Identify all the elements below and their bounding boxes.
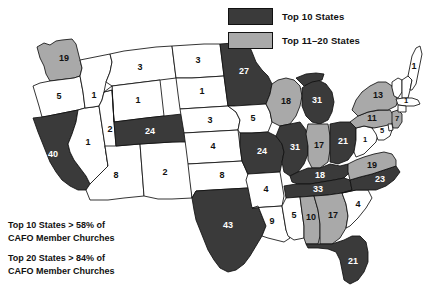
state-label-wi: 18 bbox=[281, 96, 291, 106]
state-label-mt: 3 bbox=[137, 62, 142, 72]
footnote-line-4: CAFO Member Churches bbox=[8, 265, 115, 278]
legend-item-top11-20[interactable]: Top 11–20 States bbox=[228, 32, 360, 49]
state-label-ca: 40 bbox=[48, 149, 58, 159]
state-label-tx: 43 bbox=[223, 220, 233, 230]
state-mi[interactable]: 31 bbox=[296, 73, 334, 124]
legend-swatch-top11-20 bbox=[228, 32, 273, 49]
state-nm[interactable]: 2 bbox=[140, 141, 192, 199]
state-nd[interactable]: 3 bbox=[172, 44, 224, 78]
state-label-al: 10 bbox=[306, 212, 316, 222]
state-label-az: 8 bbox=[113, 170, 118, 180]
footnotes: Top 10 States > 58% of CAFO Member Churc… bbox=[8, 219, 115, 277]
state-label-ok: 8 bbox=[219, 170, 224, 180]
state-mn[interactable]: 27 bbox=[220, 43, 272, 106]
state-label-or: 5 bbox=[56, 91, 61, 101]
footnote-line-3: Top 20 States > 84% of bbox=[8, 252, 115, 265]
state-label-ks: 4 bbox=[210, 141, 215, 151]
state-label-sd: 1 bbox=[199, 86, 204, 96]
state-label-ar: 4 bbox=[263, 184, 268, 194]
state-vt[interactable] bbox=[392, 78, 402, 98]
infographic-root: 19 5 40 1 1 3 1 bbox=[0, 0, 424, 293]
footnote-line-1: Top 10 States > 58% of bbox=[8, 219, 115, 232]
legend-swatch-top10 bbox=[228, 8, 273, 25]
state-label-id: 1 bbox=[91, 90, 96, 100]
state-wi[interactable]: 18 bbox=[266, 78, 302, 126]
state-wa[interactable]: 19 bbox=[37, 39, 82, 81]
state-label-sc: 4 bbox=[355, 199, 360, 209]
state-label-wy: 1 bbox=[135, 95, 140, 105]
state-ks[interactable]: 4 bbox=[184, 130, 242, 164]
state-label-nc: 23 bbox=[375, 174, 385, 184]
state-ma[interactable]: 1 bbox=[396, 96, 420, 106]
state-in[interactable]: 17 bbox=[306, 124, 330, 168]
state-label-il: 31 bbox=[290, 142, 300, 152]
state-label-fl: 21 bbox=[348, 256, 358, 266]
state-label-ky: 18 bbox=[315, 170, 325, 180]
state-ar[interactable]: 4 bbox=[246, 172, 284, 208]
state-sd[interactable]: 1 bbox=[176, 76, 228, 109]
state-label-va: 19 bbox=[367, 160, 377, 170]
state-label-la: 9 bbox=[269, 216, 274, 226]
state-label-wv: 1 bbox=[363, 135, 367, 144]
state-label-md: 5 bbox=[380, 126, 384, 135]
state-ne[interactable]: 3 bbox=[180, 106, 240, 133]
legend-label-top11-20: Top 11–20 States bbox=[282, 36, 360, 46]
footnote-line-2: CAFO Member Churches bbox=[8, 232, 115, 245]
state-oh[interactable]: 21 bbox=[330, 122, 356, 164]
state-label-nm: 2 bbox=[162, 167, 167, 177]
state-label-mi: 31 bbox=[312, 95, 322, 105]
state-nj[interactable]: 7 bbox=[392, 110, 402, 128]
state-ct[interactable] bbox=[398, 105, 406, 112]
state-label-co: 24 bbox=[145, 126, 155, 136]
state-label-ga: 17 bbox=[328, 210, 338, 220]
state-label-wa: 19 bbox=[59, 53, 69, 63]
state-wy[interactable]: 1 bbox=[112, 80, 164, 122]
state-label-ne: 3 bbox=[207, 115, 212, 125]
state-label-nd: 3 bbox=[195, 55, 200, 65]
state-mt[interactable]: 3 bbox=[106, 46, 176, 86]
legend-item-top10[interactable]: Top 10 States bbox=[228, 8, 360, 25]
state-label-ia: 5 bbox=[250, 113, 255, 123]
state-de[interactable] bbox=[388, 124, 393, 131]
state-label-pa: 11 bbox=[367, 113, 377, 123]
state-label-me: 1 bbox=[411, 61, 416, 71]
state-label-nj: 7 bbox=[395, 114, 399, 123]
state-label-in: 17 bbox=[314, 140, 324, 150]
state-label-tn: 33 bbox=[313, 184, 323, 194]
state-label-ut: 2 bbox=[107, 124, 112, 134]
state-label-mn: 27 bbox=[239, 66, 249, 76]
state-label-ny: 13 bbox=[373, 90, 383, 100]
legend: Top 10 States Top 11–20 States bbox=[228, 8, 360, 49]
legend-label-top10: Top 10 States bbox=[282, 12, 344, 22]
state-label-ma: 1 bbox=[404, 96, 408, 105]
state-label-mo: 24 bbox=[257, 146, 267, 156]
state-label-nv: 1 bbox=[85, 137, 90, 147]
state-label-ms: 5 bbox=[291, 210, 296, 220]
state-label-oh: 21 bbox=[338, 136, 348, 146]
